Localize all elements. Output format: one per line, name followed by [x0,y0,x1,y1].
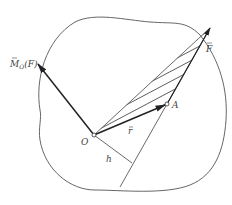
moment-label: MO(F) [9,59,38,70]
point-a-label: A [171,100,179,110]
force-label: F [205,44,213,54]
origin-label: O [81,137,89,147]
point-a [165,102,169,106]
triangle-edge-OF [94,28,210,135]
force-vector [167,28,210,104]
moment-diagram: MO(F) F r O A h [0,0,232,205]
position-label: r [128,126,133,136]
moment-arm [94,135,132,163]
moment-vector [38,64,94,135]
origin-point [92,133,96,137]
arm-label: h [106,154,112,164]
